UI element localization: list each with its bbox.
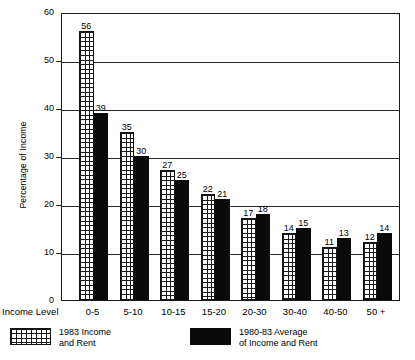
x-axis-title: Income Level [2,306,59,317]
bar-1983-income-rent[interactable]: 22 [201,194,216,300]
bar-1983-income-rent[interactable]: 11 [322,247,337,300]
x-tick-label: 5-10 [123,306,142,317]
bar-group: 1113 [322,14,351,300]
bar-group: 1718 [241,14,270,300]
bar-value-label: 39 [96,103,106,113]
legend-label-line2: of Income and Rent [239,338,318,349]
bar-1980-83-average[interactable]: 15 [296,228,311,300]
legend-item[interactable]: 1980-83 Averageof Income and Rent [190,327,318,349]
legend-label: 1980-83 Averageof Income and Rent [239,327,318,349]
x-tick-label: 50 + [367,306,386,317]
bar-1983-income-rent[interactable]: 12 [363,242,378,300]
y-tick-label: 30 [28,151,54,161]
bar-group: 5639 [79,14,108,300]
bar-1980-83-average[interactable]: 25 [175,180,190,300]
bar-1980-83-average[interactable]: 21 [215,199,230,300]
bar-1980-83-average[interactable]: 39 [94,113,109,300]
bar-group: 1214 [363,14,392,300]
bar-group: 3530 [120,14,149,300]
plot-area: 56393530272522211718141511131214 [61,13,400,301]
bar-1980-83-average[interactable]: 13 [337,238,352,300]
bar-value-label: 22 [203,184,213,194]
bar-value-label: 14 [379,223,389,233]
bar-value-label: 21 [217,189,227,199]
legend-swatch-hatch-icon [10,328,51,345]
bar-value-label: 13 [339,228,349,238]
x-tick-label: 40-50 [323,306,347,317]
y-tick-label: 20 [28,199,54,209]
legend-item[interactable]: 1983 Incomeand Rent [10,327,111,349]
bar-1983-income-rent[interactable]: 56 [79,31,94,300]
legend-swatch-solid-icon [190,328,231,345]
x-tick-label: 0-5 [86,306,100,317]
bar-value-label: 27 [162,160,172,170]
legend-label-line2: and Rent [59,338,111,349]
bar-1980-83-average[interactable]: 30 [134,156,149,300]
y-tick-label: 10 [28,247,54,257]
bar-value-label: 11 [325,237,334,247]
y-axis-title: Percentage of Income [18,80,28,250]
bar-1983-income-rent[interactable]: 35 [120,132,135,300]
bar-value-label: 17 [243,208,253,218]
bar-value-label: 14 [284,223,294,233]
legend-label: 1983 Incomeand Rent [59,327,111,349]
bar-group: 1415 [282,14,311,300]
bar-1983-income-rent[interactable]: 14 [282,233,297,300]
bar-value-label: 18 [258,204,268,214]
y-tick-label: 60 [28,7,54,17]
chart-legend: 1983 Incomeand Rent1980-83 Averageof Inc… [0,327,415,360]
bar-1983-income-rent[interactable]: 27 [160,170,175,300]
y-tick-label: 40 [28,103,54,113]
legend-label-line1: 1980-83 Average [239,327,318,338]
x-tick-label: 30-40 [283,306,307,317]
x-tick-label: 10-15 [161,306,185,317]
x-tick-label: 15-20 [202,306,226,317]
bar-value-label: 12 [365,232,375,242]
x-tick-label: 20-30 [242,306,266,317]
bar-group: 2725 [160,14,189,300]
bar-value-label: 35 [122,122,132,132]
bar-1980-83-average[interactable]: 18 [256,214,271,300]
y-tick-label: 0 [28,295,54,305]
bar-value-label: 25 [177,170,187,180]
legend-label-line1: 1983 Income [59,327,111,338]
y-tick-label: 50 [28,55,54,65]
bar-group: 2221 [201,14,230,300]
bar-value-label: 30 [136,146,146,156]
bar-1983-income-rent[interactable]: 17 [241,218,256,300]
bar-value-label: 15 [298,218,308,228]
bar-chart: Percentage of Income 6050403020100 56393… [0,0,415,360]
bar-value-label: 56 [81,21,91,31]
bar-1980-83-average[interactable]: 14 [377,233,392,300]
